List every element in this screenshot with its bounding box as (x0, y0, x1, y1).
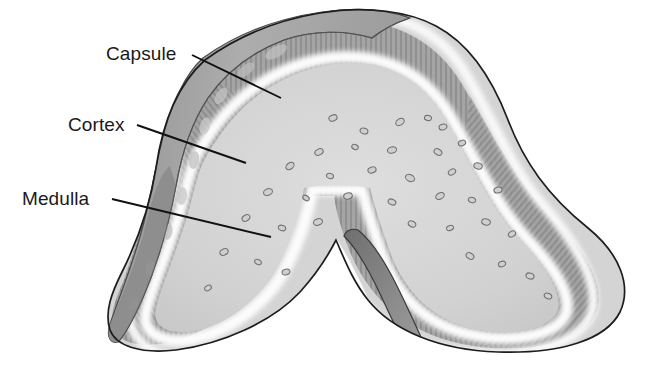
medulla-label-text: Medulla (22, 188, 90, 209)
capsule-label-text: Capsule (106, 43, 176, 64)
figure-canvas: Capsule Cortex Medulla (0, 0, 654, 371)
lymph-node-diagram: Capsule Cortex Medulla (0, 0, 654, 371)
organ-fill (0, 0, 654, 371)
cortex-label-text: Cortex (68, 114, 125, 135)
organ-body (0, 0, 654, 371)
